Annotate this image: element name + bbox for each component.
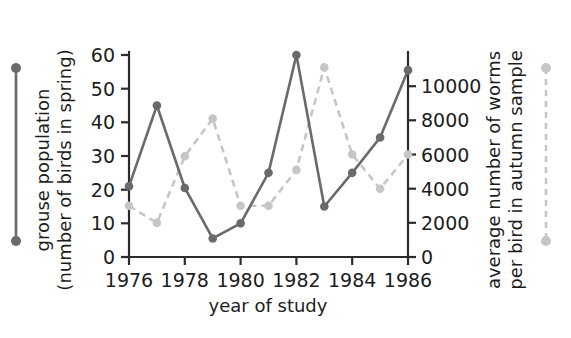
- right-tick-label-2000: 2000: [421, 212, 469, 234]
- worms-per-bird-points: [125, 63, 413, 227]
- data-point: [181, 152, 190, 161]
- data-point: [264, 201, 273, 210]
- data-point: [208, 234, 217, 243]
- right-axis-ticks: 0 2000 4000 6000 8000 10000: [408, 75, 481, 268]
- left-axis-title: grouse population (number of birds in sp…: [32, 49, 75, 290]
- left-axis-ticks: 0 10 20 30 40 50 60: [91, 44, 129, 268]
- left-tick-label-40: 40: [91, 111, 115, 133]
- data-point: [404, 150, 413, 159]
- data-point: [153, 219, 162, 228]
- right-tick-label-10000: 10000: [421, 75, 481, 97]
- grouse-population-points: [125, 51, 413, 243]
- left-tick-label-30: 30: [91, 145, 115, 167]
- left-axis-title-line1: grouse population: [32, 89, 53, 252]
- data-point: [348, 150, 357, 159]
- x-tick-label-1984: 1984: [328, 269, 376, 291]
- data-point: [404, 66, 413, 75]
- data-point: [125, 201, 134, 210]
- chart-container: grouse population (number of birds in sp…: [0, 0, 571, 338]
- left-tick-label-50: 50: [91, 78, 115, 100]
- x-tick-label-1980: 1980: [216, 269, 264, 291]
- x-tick-label-1976: 1976: [105, 269, 153, 291]
- x-tick-label-1978: 1978: [161, 269, 209, 291]
- data-point: [292, 51, 301, 60]
- x-axis-title: year of study: [209, 295, 328, 316]
- data-point: [181, 184, 190, 193]
- x-tick-label-1986: 1986: [384, 269, 432, 291]
- right-axis-title-line1: average number of worms: [483, 51, 504, 289]
- left-tick-label-20: 20: [91, 179, 115, 201]
- data-point: [348, 169, 357, 178]
- data-point: [320, 63, 329, 72]
- right-axis-title: average number of worms per bird in autu…: [483, 50, 526, 289]
- left-tick-label-60: 60: [91, 44, 115, 66]
- data-point: [208, 114, 217, 123]
- data-point: [320, 202, 329, 211]
- right-tick-label-6000: 6000: [421, 144, 469, 166]
- right-tick-label-0: 0: [421, 246, 433, 268]
- right-tick-label-4000: 4000: [421, 178, 469, 200]
- line-chart: grouse population (number of birds in sp…: [0, 0, 571, 338]
- x-tick-label-1982: 1982: [272, 269, 320, 291]
- series-layer: [125, 51, 413, 243]
- data-point: [236, 219, 245, 228]
- right-axis-title-line2: per bird in autumn sample: [505, 50, 526, 289]
- grouse-population-line: [129, 55, 408, 238]
- data-point: [236, 201, 245, 210]
- data-point: [376, 133, 385, 142]
- grouse-population-key: [11, 63, 21, 246]
- data-point: [125, 182, 134, 191]
- data-point: [376, 184, 385, 193]
- worms-per-bird-key: [541, 63, 551, 246]
- data-point: [264, 169, 273, 178]
- right-tick-label-8000: 8000: [421, 109, 469, 131]
- left-tick-label-10: 10: [91, 212, 115, 234]
- left-axis-title-line2: (number of birds in spring): [54, 49, 75, 290]
- data-point: [292, 166, 301, 175]
- x-axis-ticks: 1976 1978 1980 1982 1984 1986: [105, 257, 432, 291]
- left-tick-label-0: 0: [103, 246, 115, 268]
- data-point: [153, 101, 162, 110]
